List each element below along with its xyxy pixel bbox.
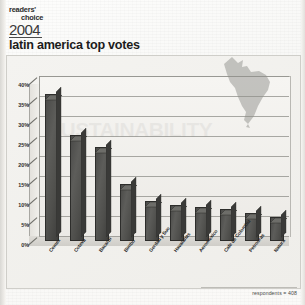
y-axis-tick-label: 10% bbox=[7, 202, 29, 208]
y-axis-tick-label: 5% bbox=[7, 222, 29, 228]
respondents-note: respondents = 408 bbox=[252, 290, 297, 296]
bar bbox=[145, 198, 157, 241]
bar bbox=[120, 181, 132, 241]
bar bbox=[220, 206, 232, 241]
gridline bbox=[39, 116, 289, 117]
latin-america-map-icon bbox=[218, 55, 278, 132]
bar bbox=[95, 144, 107, 241]
y-axis-tick-label: 30% bbox=[7, 122, 29, 128]
footer-divider bbox=[201, 287, 297, 288]
gridline bbox=[39, 76, 289, 77]
page-title: latin america top votes bbox=[9, 38, 140, 52]
bar-side-face bbox=[81, 128, 87, 242]
bar bbox=[170, 202, 182, 241]
logo-line-choice: choice bbox=[9, 14, 75, 22]
bar bbox=[45, 91, 57, 241]
bar bbox=[195, 204, 207, 241]
readers-choice-logo: readers' choice 2004 bbox=[9, 6, 75, 39]
y-axis-tick-label: 15% bbox=[7, 182, 29, 188]
y-axis-tick-label: 35% bbox=[7, 102, 29, 108]
y-axis-tick-label: 25% bbox=[7, 142, 29, 148]
page-right-edge bbox=[301, 0, 305, 305]
bar-side-face bbox=[106, 140, 112, 242]
bar-chart: SUSTAINABILITY 40%35%30%25%20%15%10%5%0%… bbox=[6, 55, 301, 289]
bar bbox=[70, 132, 82, 241]
chart-x-axis-labels: CemexCotevaBacardiBimboGerdau y SuoHavai… bbox=[7, 248, 300, 289]
y-axis-tick-label: 40% bbox=[7, 82, 29, 88]
logo-year: 2004 bbox=[9, 22, 42, 38]
bar-side-face bbox=[131, 177, 137, 242]
gridline bbox=[39, 96, 289, 97]
y-axis-tick-label: 20% bbox=[7, 162, 29, 168]
bar-side-face bbox=[56, 87, 62, 242]
bar bbox=[270, 214, 282, 241]
